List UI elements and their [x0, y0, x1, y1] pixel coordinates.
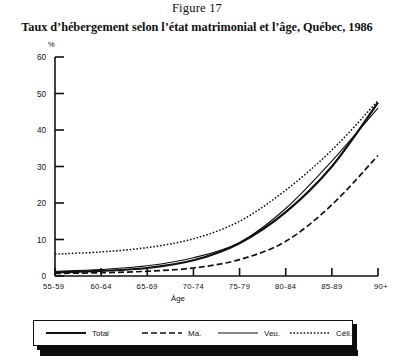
- chart-legend: TotalMa.Veu.Céli.: [33, 320, 353, 346]
- y-tick-label: 10: [37, 236, 47, 245]
- figure-container: Figure 17 Taux d’hébergement selon l’éta…: [0, 0, 394, 360]
- y-tick-label: 20: [37, 199, 47, 208]
- legend-item-total[interactable]: Total: [46, 321, 109, 345]
- legend-label: Ma.: [188, 329, 201, 338]
- legend-swatch-thin-solid: [218, 328, 258, 338]
- y-tick-label: 0: [41, 272, 46, 281]
- chart-plot: 0102030405060 55-5960-6465-6970-7475-798…: [0, 0, 394, 320]
- legend-item-cli[interactable]: Céli.: [290, 321, 352, 345]
- series-line-ma: [55, 156, 378, 274]
- axis-lines: [55, 57, 378, 276]
- series-line-total: [55, 103, 378, 273]
- x-tick-label: 60-64: [90, 282, 111, 291]
- legend-item-veu[interactable]: Veu.: [218, 321, 280, 345]
- y-tick-label: 40: [37, 126, 47, 135]
- x-tick-label: 85-89: [321, 282, 342, 291]
- bottom-rule: [40, 350, 358, 356]
- x-tick-label: 90+: [374, 282, 388, 291]
- series-line-veu: [55, 108, 378, 271]
- legend-swatch-thick-solid: [46, 328, 86, 338]
- x-axis-title: Âge: [171, 294, 185, 303]
- legend-swatch-dotted: [290, 328, 330, 338]
- legend-label: Total: [92, 329, 109, 338]
- legend-label: Veu.: [264, 329, 280, 338]
- series-paths: [55, 101, 378, 274]
- y-tick-labels: 0102030405060: [37, 53, 47, 281]
- x-tick-label: 55-59: [43, 282, 64, 291]
- y-tick-label: 30: [37, 163, 47, 172]
- legend-swatch-dashed: [142, 328, 182, 338]
- legend-label: Céli.: [336, 329, 352, 338]
- y-axis-ticks: [55, 57, 64, 276]
- x-tick-label: 80-84: [275, 282, 296, 291]
- x-tick-labels: 55-5960-6465-6970-7475-7980-8485-8990+: [43, 282, 388, 291]
- x-tick-label: 65-69: [137, 282, 158, 291]
- series-line-cli: [55, 101, 378, 254]
- x-tick-label: 75-79: [229, 282, 250, 291]
- x-tick-label: 70-74: [183, 282, 204, 291]
- y-tick-label: 50: [37, 90, 47, 99]
- y-tick-label: 60: [37, 53, 47, 62]
- legend-box: TotalMa.Veu.Céli.: [33, 320, 353, 346]
- legend-item-ma[interactable]: Ma.: [142, 321, 201, 345]
